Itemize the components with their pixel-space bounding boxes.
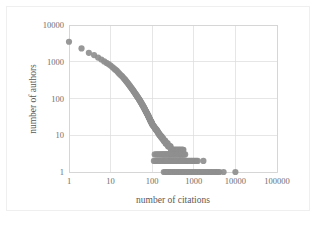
y-tick-label: 1000 (47, 57, 64, 67)
data-point (66, 39, 72, 45)
x-tick-label: 100 (146, 176, 159, 186)
y-tick-label: 1 (60, 167, 64, 177)
y-tick-label: 100 (51, 94, 64, 104)
data-point (195, 158, 201, 164)
data-point (200, 158, 206, 164)
x-tick-label: 10000 (225, 176, 246, 186)
citation-distribution-scatter-chart: 110100100010000100000 110100100010000 nu… (0, 0, 315, 229)
chart-container: 110100100010000100000 110100100010000 nu… (0, 0, 315, 229)
y-tick-label: 10000 (43, 20, 64, 30)
x-tick-label: 100000 (264, 176, 290, 186)
x-axis-tick-labels: 110100100010000100000 (67, 176, 290, 186)
x-tick-label: 10 (106, 176, 115, 186)
y-tick-label: 10 (56, 130, 65, 140)
data-point (220, 169, 226, 175)
data-point (78, 45, 84, 51)
data-point (232, 169, 238, 175)
y-axis-title: number of authors (28, 64, 38, 134)
x-axis-title: number of citations (136, 195, 210, 205)
data-point (182, 151, 188, 157)
y-axis-tick-labels: 110100100010000 (43, 20, 64, 177)
x-tick-label: 1000 (185, 176, 202, 186)
x-tick-label: 1 (67, 176, 71, 186)
